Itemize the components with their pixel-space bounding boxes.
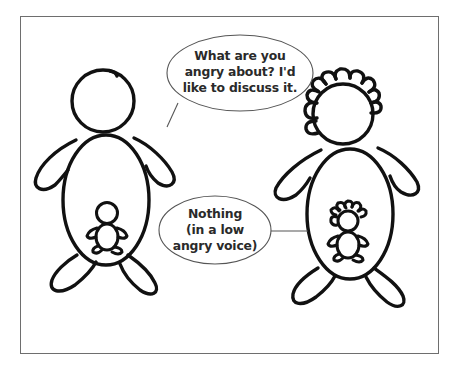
left-figure bbox=[35, 70, 174, 294]
left-inner-child bbox=[87, 203, 127, 255]
right-head bbox=[313, 84, 373, 144]
bubble-line: like to discuss it. bbox=[172, 80, 308, 96]
bubble-line: (in a low bbox=[160, 222, 270, 238]
speech-bubble-right-text: Nothing (in a low angry voice) bbox=[160, 206, 270, 254]
speech-bubble-left-text: What are you angry about? I'd like to di… bbox=[172, 48, 308, 96]
right-leg-left bbox=[293, 268, 335, 303]
right-inner-child bbox=[328, 201, 368, 262]
bubble-line: angry about? I'd bbox=[172, 64, 308, 80]
left-body bbox=[63, 135, 149, 265]
left-leg-right bbox=[120, 255, 157, 294]
left-head bbox=[72, 70, 134, 132]
bubble-line: angry voice) bbox=[160, 238, 270, 254]
left-head-tuft bbox=[110, 71, 117, 76]
speech-bubble-left-tail bbox=[167, 103, 178, 127]
right-figure bbox=[275, 69, 418, 306]
bubble-line: What are you bbox=[172, 48, 308, 64]
bubble-line: Nothing bbox=[160, 206, 270, 222]
right-body bbox=[307, 149, 393, 279]
right-leg-right bbox=[366, 268, 404, 306]
